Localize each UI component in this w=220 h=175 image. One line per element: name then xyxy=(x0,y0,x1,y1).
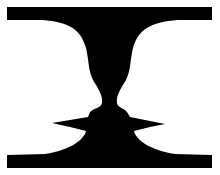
rubin-vase-figure: Rubin vase illusion xyxy=(0,0,220,175)
vase-silhouette xyxy=(0,0,220,175)
